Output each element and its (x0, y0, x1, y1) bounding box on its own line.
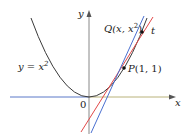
point-q-close: ) (138, 23, 142, 34)
point-p-coords: (1, 1) (135, 63, 162, 74)
point-q-label: Q(x, x2) (104, 24, 142, 34)
point-q-coords: (x, x (112, 23, 134, 34)
point-q-name: Q (104, 23, 112, 34)
point-p-name: P (128, 63, 135, 74)
tangent-label: t (151, 26, 155, 36)
secant-tangent-diagram: y x 0 y = x2 Q(x, x2) t P(1, 1) (0, 0, 188, 139)
point-p (122, 66, 126, 70)
x-axis-label: x (175, 98, 181, 108)
curve-equation-text: y = x (18, 61, 44, 72)
curve-equation-label: y = x2 (18, 62, 49, 72)
point-p-label: P(1, 1) (128, 64, 162, 74)
y-axis-arrow-icon (87, 10, 92, 17)
origin-label: 0 (80, 100, 86, 110)
y-axis-label: y (78, 9, 84, 19)
curve-equation-exponent: 2 (44, 60, 48, 68)
